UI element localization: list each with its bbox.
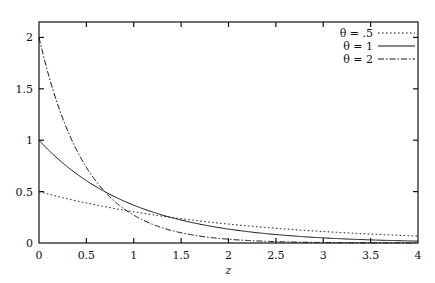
legend-item-label-0: θ = .5 <box>340 28 373 39</box>
x-tick-label: 0 <box>36 250 43 261</box>
x-tick-label: 1.5 <box>172 250 190 261</box>
x-tick-label: 0.5 <box>78 250 96 261</box>
y-tick-label: 1 <box>26 135 33 146</box>
data-curves <box>39 37 418 243</box>
x-axis-title: z <box>226 265 232 276</box>
x-tick-label: 1 <box>130 250 137 261</box>
y-tick-label: 2 <box>26 32 33 43</box>
curve-series-1 <box>39 140 418 241</box>
curve-series-2 <box>39 37 418 243</box>
x-tick-label: 3.5 <box>362 250 380 261</box>
legend-item-label-1: θ = 1 <box>343 41 373 52</box>
y-tick-label: 1.5 <box>16 83 34 94</box>
x-tick-label: 4 <box>415 250 422 261</box>
x-tick-label: 2 <box>225 250 232 261</box>
x-tick-label: 2.5 <box>267 250 285 261</box>
chart-figure: 00.511.52 00.511.522.533.54 θ = .5θ = 1θ… <box>0 0 435 283</box>
legend-sample-lines <box>378 33 415 59</box>
legend-item-label-2: θ = 2 <box>343 54 373 65</box>
y-tick-label: 0 <box>26 238 33 249</box>
y-tick-label: 0.5 <box>16 186 34 197</box>
x-tick-label: 3 <box>320 250 327 261</box>
